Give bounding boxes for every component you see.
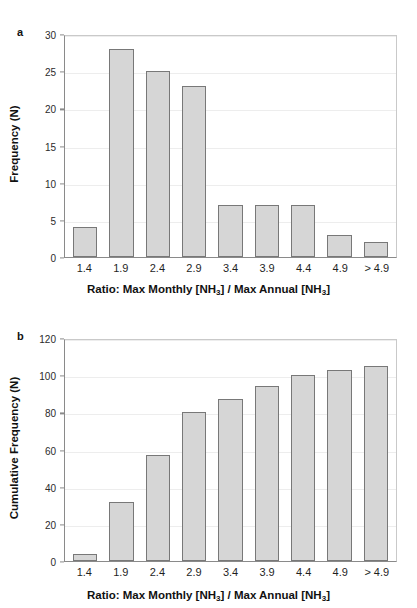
- bar-3-9[interactable]: [255, 205, 279, 257]
- x-tick-label: 2.9: [176, 262, 213, 274]
- bar-3-9[interactable]: [255, 386, 279, 561]
- panel-a-x-axis-title-post: ]: [326, 283, 330, 295]
- bar-3-4[interactable]: [218, 205, 242, 257]
- y-tick-label: 5: [50, 215, 56, 226]
- bar-1-4[interactable]: [73, 554, 97, 561]
- x-tick-label: 4.9: [322, 262, 359, 274]
- bar-slot: [285, 36, 321, 257]
- x-tick-label: > 4.9: [359, 566, 396, 578]
- bar-4-9[interactable]: [364, 242, 388, 257]
- x-tick-label: 4.9: [322, 566, 359, 578]
- y-tick-label: 0: [50, 253, 56, 264]
- bar-slot: [176, 36, 212, 257]
- x-tick-label: 3.4: [212, 262, 249, 274]
- bar-slot: [249, 340, 285, 561]
- bar-slot: [67, 36, 103, 257]
- panel-b-x-axis-title: Ratio: Max Monthly [NH3] / Max Annual [N…: [0, 589, 417, 601]
- x-tick-label: 3.9: [249, 262, 286, 274]
- panel-b: b Cumulative Frequency (N) 0204060801001…: [0, 304, 417, 608]
- x-tick-label: 2.4: [139, 566, 176, 578]
- x-tick-label: > 4.9: [359, 262, 396, 274]
- panel-b-x-axis-title-post: ]: [326, 589, 330, 601]
- bar-1-9[interactable]: [109, 502, 133, 561]
- bar-slot: [212, 36, 248, 257]
- panel-a: a Frequency (N) 051015202530 1.41.92.42.…: [0, 0, 417, 304]
- panel-a-x-axis-title-pre: Ratio: Max Monthly [NH: [87, 283, 216, 295]
- y-tick-label: 120: [39, 334, 56, 345]
- x-tick-label: 1.4: [66, 262, 103, 274]
- bar-slot: [358, 340, 394, 561]
- panel-a-x-axis-title-mid: ] / Max Annual [NH: [221, 283, 322, 295]
- y-tick-label: 10: [45, 178, 56, 189]
- panel-a-x-axis-title-sub1: 3: [216, 288, 220, 297]
- x-tick-label: 4.4: [285, 566, 322, 578]
- panel-b-y-tick-labels: 020406080100120: [24, 339, 60, 562]
- y-tick-label: 30: [45, 30, 56, 41]
- y-tick-label: 40: [45, 482, 56, 493]
- y-tick-label: 100: [39, 371, 56, 382]
- y-tick-label: 0: [50, 557, 56, 568]
- bar-4-4[interactable]: [291, 205, 315, 257]
- bar-slot: [321, 36, 357, 257]
- bar-slot: [321, 340, 357, 561]
- x-tick-label: 1.9: [103, 262, 140, 274]
- x-tick-label: 3.4: [212, 566, 249, 578]
- panel-a-plot-area: [64, 35, 397, 258]
- bar-slot: [358, 36, 394, 257]
- panel-a-y-tick-labels: 051015202530: [24, 35, 60, 258]
- bar-4-9[interactable]: [364, 366, 388, 561]
- x-tick-label: 3.9: [249, 566, 286, 578]
- bar-slot: [249, 36, 285, 257]
- panel-a-tag: a: [17, 26, 23, 38]
- bar-4-9[interactable]: [327, 235, 351, 257]
- figure-histogram-pair: a Frequency (N) 051015202530 1.41.92.42.…: [0, 0, 417, 608]
- bar-slot: [103, 340, 139, 561]
- panel-a-x-axis-title: Ratio: Max Monthly [NH3] / Max Annual [N…: [0, 283, 417, 295]
- panel-b-x-tick-labels: 1.41.92.42.93.43.94.44.9> 4.9: [64, 566, 397, 578]
- x-tick-label: 1.9: [103, 566, 140, 578]
- y-tick-label: 15: [45, 141, 56, 152]
- panel-b-x-axis-title-sub2: 3: [322, 594, 326, 603]
- bar-slot: [67, 340, 103, 561]
- y-tick-label: 20: [45, 519, 56, 530]
- bar-slot: [285, 340, 321, 561]
- bar-2-4[interactable]: [146, 455, 170, 561]
- bar-4-4[interactable]: [291, 375, 315, 561]
- panel-a-y-axis-title: Frequency (N): [4, 30, 24, 258]
- x-tick-label: 2.4: [139, 262, 176, 274]
- bar-1-9[interactable]: [109, 49, 133, 257]
- panel-b-bar-series: [65, 340, 396, 561]
- bar-slot: [140, 340, 176, 561]
- panel-a-y-axis-title-text: Frequency (N): [8, 105, 20, 182]
- bar-slot: [212, 340, 248, 561]
- bar-2-9[interactable]: [182, 412, 206, 561]
- panel-b-tag: b: [17, 330, 24, 342]
- bar-slot: [176, 340, 212, 561]
- bar-2-9[interactable]: [182, 86, 206, 257]
- panel-b-x-axis-title-mid: ] / Max Annual [NH: [221, 589, 322, 601]
- y-tick-label: 80: [45, 408, 56, 419]
- x-tick-label: 2.9: [176, 566, 213, 578]
- y-tick-label: 20: [45, 104, 56, 115]
- bar-slot: [140, 36, 176, 257]
- panel-a-x-axis-title-sub2: 3: [322, 288, 326, 297]
- bar-1-4[interactable]: [73, 227, 97, 257]
- panel-a-bar-series: [65, 36, 396, 257]
- panel-a-x-tick-labels: 1.41.92.42.93.43.94.44.9> 4.9: [64, 262, 397, 274]
- y-tick-label: 25: [45, 67, 56, 78]
- panel-b-plot-area: [64, 339, 397, 562]
- panel-b-y-axis-title: Cumulative Frequency (N): [4, 334, 24, 562]
- bar-2-4[interactable]: [146, 71, 170, 257]
- panel-b-y-axis-title-text: Cumulative Frequency (N): [8, 377, 20, 520]
- panel-b-x-axis-title-sub1: 3: [216, 594, 220, 603]
- panel-b-x-axis-title-pre: Ratio: Max Monthly [NH: [87, 589, 216, 601]
- bar-3-4[interactable]: [218, 399, 242, 561]
- x-tick-label: 1.4: [66, 566, 103, 578]
- x-tick-label: 4.4: [285, 262, 322, 274]
- bar-slot: [103, 36, 139, 257]
- bar-4-9[interactable]: [327, 370, 351, 561]
- y-tick-label: 60: [45, 445, 56, 456]
